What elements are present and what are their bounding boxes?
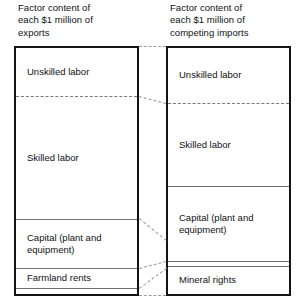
exports-bar: Unskilled labor Skilled labor Capital (p… [14, 46, 139, 296]
tie-line-farmland-mineral [139, 268, 167, 289]
segment-mineral-rights-exports [16, 288, 137, 294]
tie-line-bar-bottom [139, 295, 166, 296]
segment-mineral-rights-imports: Mineral rights [168, 266, 289, 294]
segment-label: Unskilled labor [168, 69, 245, 81]
segment-capital-imports: Capital (plant and equipment) [168, 186, 289, 261]
imports-bar: Unskilled labor Skilled labor Capital (p… [166, 46, 291, 296]
segment-label: Farmland rents [16, 272, 95, 284]
segment-skilled-labor-exports: Skilled labor [16, 96, 137, 219]
segment-label: Skilled labor [16, 152, 83, 164]
segment-label: Capital (plant and equipment) [16, 232, 105, 256]
segment-capital-exports: Capital (plant and equipment) [16, 219, 137, 268]
segment-unskilled-labor-imports: Unskilled labor [168, 48, 289, 103]
segment-label: Capital (plant and equipment) [168, 212, 257, 236]
figure-canvas: Factor content of each $1 million of exp… [0, 0, 298, 303]
segment-label: Skilled labor [168, 139, 235, 151]
tie-line-capital-lower [139, 261, 166, 269]
left-bar-caption: Factor content of each $1 million of exp… [18, 2, 138, 39]
segment-label: Mineral rights [168, 274, 240, 286]
right-bar-caption: Factor content of each $1 million of com… [170, 2, 294, 39]
segment-farmland-rents-exports: Farmland rents [16, 268, 137, 288]
tie-line-skilled-capital [139, 218, 167, 241]
segment-skilled-labor-imports: Skilled labor [168, 103, 289, 186]
segment-unskilled-labor-exports: Unskilled labor [16, 48, 137, 96]
tie-line-unskilled-skilled [139, 96, 166, 104]
tie-line-bar-top [139, 46, 166, 47]
segment-label: Unskilled labor [16, 66, 93, 78]
